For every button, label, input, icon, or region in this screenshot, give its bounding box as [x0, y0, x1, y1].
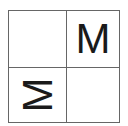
- letter-upright: M: [76, 18, 111, 60]
- cell-top-right: M: [66, 11, 120, 67]
- letter-rotated: M: [17, 78, 59, 113]
- cell-bottom-left: M: [9, 67, 66, 123]
- letter-grid: M M: [8, 10, 120, 123]
